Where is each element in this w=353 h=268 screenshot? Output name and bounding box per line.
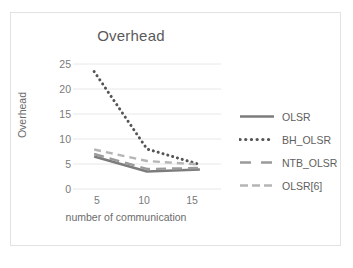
legend-swatch-dotted-icon: [239, 134, 275, 145]
series-line-bh-olsr: [94, 72, 200, 165]
legend-label-bh-olsr: BH_OLSR: [282, 134, 331, 146]
legend: OLSR BH_OLSR NTB_OLSR OLSR[6]: [239, 105, 343, 197]
legend-swatch-solid-icon: [239, 111, 275, 122]
series-lines: [94, 72, 200, 172]
legend-item-olsr6[interactable]: OLSR[6]: [239, 174, 343, 197]
legend-item-olsr[interactable]: OLSR: [239, 105, 343, 128]
legend-swatch-dashed-icon: [239, 180, 275, 191]
legend-item-ntb-olsr[interactable]: NTB_OLSR: [239, 151, 343, 174]
legend-label-olsr6: OLSR[6]: [282, 180, 322, 192]
legend-swatch-dashed-long-icon: [239, 157, 275, 168]
legend-label-ntb-olsr: NTB_OLSR: [282, 157, 337, 169]
legend-label-olsr: OLSR: [282, 111, 311, 123]
legend-item-bh-olsr[interactable]: BH_OLSR: [239, 128, 343, 151]
series-line-olsr-6-: [94, 150, 200, 165]
chart-frame: Overhead Overhead number of communicatio…: [10, 12, 341, 246]
